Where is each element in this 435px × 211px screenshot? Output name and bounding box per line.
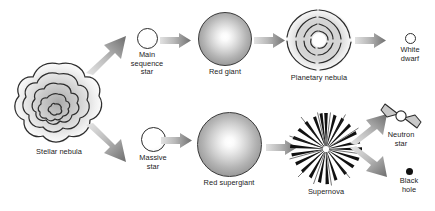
gradient-sphere-icon <box>197 112 262 177</box>
stellar-evolution-diagram: Stellar nebula Main sequence star Red gi… <box>0 0 435 211</box>
stage-label-planetary-nebula: Planetary nebula <box>291 74 347 83</box>
stage-planetary-nebula: Planetary nebula <box>276 8 362 83</box>
stage-label-red-giant: Red giant <box>209 68 241 77</box>
tiny-open-circle-icon <box>405 33 416 44</box>
stage-label-massive-star: Massive star <box>139 154 166 171</box>
stage-white-dwarf: White dwarf <box>388 33 432 63</box>
pulsar-icon <box>380 103 422 129</box>
stage-label-supernova: Supernova <box>308 188 344 197</box>
arrow-planetary-nebula-to-white-dwarf <box>355 33 387 48</box>
stage-neutron-star: Neutron star <box>372 103 430 148</box>
gradient-sphere-icon <box>198 12 252 66</box>
stage-black-hole: Black hole <box>388 168 430 194</box>
stage-label-stellar-nebula: Stellar nebula <box>36 148 82 157</box>
planetary-nebula-icon <box>285 8 353 72</box>
stage-label-neutron-star: Neutron star <box>388 131 415 148</box>
stage-label-white-dwarf: White dwarf <box>400 46 419 63</box>
stage-label-black-hole: Black hole <box>400 177 418 194</box>
stage-label-main-sequence-star: Main sequence star <box>131 51 163 77</box>
stage-label-red-supergiant: Red supergiant <box>204 179 255 188</box>
stage-red-supergiant: Red supergiant <box>186 112 272 188</box>
stage-red-giant: Red giant <box>190 12 260 77</box>
filled-dot-icon <box>406 168 413 175</box>
arrow-supernova-to-black-hole <box>349 145 389 179</box>
arrow-main-sequence-to-red-giant <box>160 33 192 48</box>
small-open-circle-icon <box>137 28 158 49</box>
